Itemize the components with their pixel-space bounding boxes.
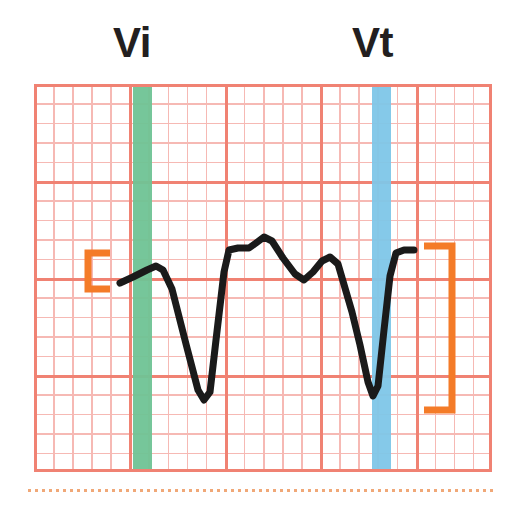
right-bracket-icon [424,246,452,410]
ecg-figure: Vi Vt [0,0,525,505]
ecg-grid-paper [34,84,492,472]
dotted-baseline-rule [28,489,496,492]
left-bracket-icon [88,253,110,289]
marker-label-vi: Vi [113,22,151,64]
marker-label-vt: Vt [352,22,393,64]
ecg-waveform-svg [34,84,492,472]
ecg-trace-line [120,237,414,400]
